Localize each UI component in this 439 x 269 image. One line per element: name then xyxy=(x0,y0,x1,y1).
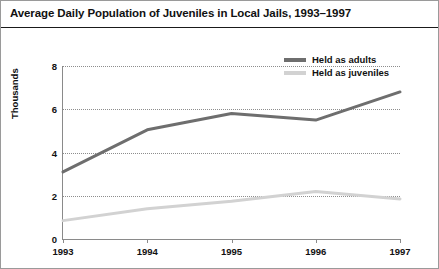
y-axis-label: Thousands xyxy=(9,68,20,119)
y-axis-tick-label: 2 xyxy=(52,190,57,201)
series-lines xyxy=(63,66,400,239)
y-axis-tick-label: 6 xyxy=(52,104,57,115)
y-axis-tick-label: 0 xyxy=(52,234,57,245)
x-axis-tick-label: 1995 xyxy=(221,246,242,257)
x-axis-tick-label: 1993 xyxy=(52,246,73,257)
y-axis-tick-label: 8 xyxy=(52,61,57,72)
series-line-held-as-juveniles xyxy=(63,191,400,220)
legend-swatch-held-as-adults xyxy=(284,58,306,62)
page-title: Average Daily Population of Juveniles in… xyxy=(10,7,351,19)
plot-area: 02468 19931994199519961997 xyxy=(63,66,400,239)
x-axis-tick-label: 1996 xyxy=(305,246,326,257)
legend-item-held-as-adults: Held as adults xyxy=(284,50,424,63)
title-bar: Average Daily Population of Juveniles in… xyxy=(1,1,438,28)
x-axis-line xyxy=(62,239,400,240)
x-axis-tick-label: 1997 xyxy=(389,246,410,257)
series-line-held-as-adults xyxy=(63,92,400,172)
y-axis-tick-label: 4 xyxy=(52,147,57,158)
x-axis-tick-label: 1994 xyxy=(137,246,158,257)
chart-figure: Average Daily Population of Juveniles in… xyxy=(0,0,439,269)
x-axis-tick xyxy=(400,239,401,243)
